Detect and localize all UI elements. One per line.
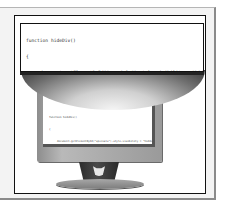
code-callout: function hideDiv() { document.getElement… [20, 23, 204, 72]
illustration-frame: function hideDiv() { document.getElement… [14, 15, 206, 194]
code-line: function hideDiv() [26, 38, 204, 43]
monitor-stand-base [56, 179, 144, 189]
stand-notch [93, 162, 105, 176]
code-line: document.getElementById("specials").styl… [49, 140, 155, 144]
code-line: { [26, 54, 204, 59]
code-line: function hideDiv() [49, 116, 155, 120]
callout-code-block: function hideDiv() { document.getElement… [26, 27, 204, 72]
screen-code-block: function hideDiv() { document.getElement… [49, 108, 155, 147]
code-line: { [49, 128, 155, 132]
code-line: document.getElementById("specials").styl… [26, 70, 204, 72]
